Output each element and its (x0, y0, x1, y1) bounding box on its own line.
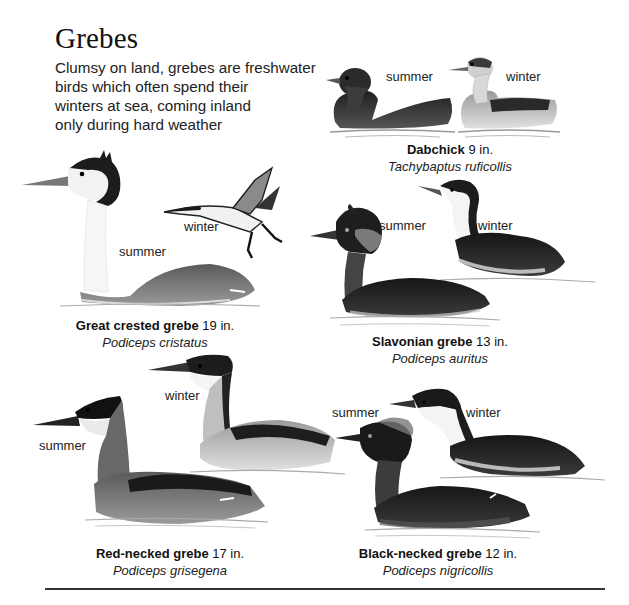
great-crested-grebe-summer-illustration (22, 150, 260, 306)
bottom-divider (45, 588, 605, 590)
dabchick-winter-label: winter (506, 69, 541, 84)
great-crested-grebe-caption: Great crested grebe 19 in. Podiceps cris… (55, 316, 255, 350)
size: 12 in. (485, 546, 517, 561)
great-crested-grebe-summer-label: summer (119, 244, 166, 259)
common-name: Black-necked grebe (359, 546, 482, 561)
red-necked-grebe-winter-label: winter (165, 388, 200, 403)
scientific-name: Tachybaptus ruficollis (375, 159, 525, 174)
scientific-name: Podiceps grisegena (80, 563, 260, 578)
great-crested-grebe-winter-label: winter (184, 219, 219, 234)
slavonian-grebe-summer-label: summer (379, 218, 426, 233)
common-name: Red-necked grebe (96, 546, 209, 561)
great-crested-grebe-winter-illustration (164, 168, 282, 258)
size: 17 in. (212, 546, 244, 561)
scientific-name: Podiceps nigricollis (348, 563, 528, 578)
species-name-line: Dabchick 9 in. (407, 142, 493, 157)
black-necked-grebe-summer-label: summer (332, 405, 379, 420)
common-name: Dabchick (407, 142, 465, 157)
common-name: Great crested grebe (76, 318, 199, 333)
red-necked-grebe-summer-label: summer (39, 438, 86, 453)
scientific-name: Podiceps cristatus (55, 335, 255, 350)
dabchick-summer-label: summer (386, 69, 433, 84)
size: 19 in. (202, 318, 234, 333)
species-name-line: Red-necked grebe 17 in. (96, 546, 244, 561)
black-necked-grebe-winter-label: winter (466, 405, 501, 420)
species-name-line: Great crested grebe 19 in. (76, 318, 234, 333)
size: 13 in. (476, 334, 508, 349)
black-necked-grebe-winter-illustration (389, 389, 605, 480)
scientific-name: Podiceps auritus (365, 351, 515, 366)
grebe-illustrations (0, 0, 629, 605)
dabchick-winter-illustration (448, 57, 560, 137)
species-name-line: Black-necked grebe 12 in. (359, 546, 517, 561)
red-necked-grebe-caption: Red-necked grebe 17 in. Podiceps grisege… (80, 544, 260, 578)
species-name-line: Slavonian grebe 13 in. (372, 334, 508, 349)
slavonian-grebe-caption: Slavonian grebe 13 in. Podiceps auritus (365, 332, 515, 366)
common-name: Slavonian grebe (372, 334, 472, 349)
red-necked-grebe-winter-illustration (148, 355, 345, 474)
black-necked-grebe-caption: Black-necked grebe 12 in. Podiceps nigri… (348, 544, 528, 578)
size: 9 in. (468, 142, 493, 157)
slavonian-grebe-winter-label: winter (478, 218, 513, 233)
dabchick-caption: Dabchick 9 in. Tachybaptus ruficollis (375, 140, 525, 174)
